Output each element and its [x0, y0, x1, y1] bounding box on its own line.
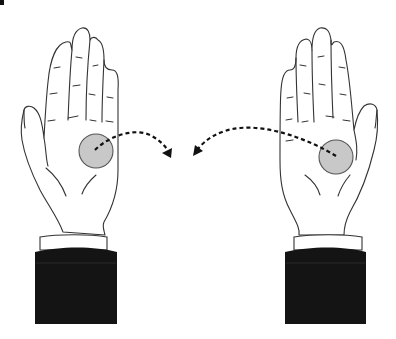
left-sleeve	[35, 248, 117, 325]
right-coin	[319, 140, 353, 174]
right-hand	[280, 28, 378, 235]
left-hand	[21, 28, 118, 235]
right-arrowhead	[193, 145, 203, 156]
left-hand-outline	[21, 28, 118, 235]
coin-transfer-illustration: Coin transfer between palms	[0, 0, 396, 339]
right-hand-outline	[280, 28, 378, 235]
left-arrowhead	[162, 148, 172, 158]
corner-mark	[0, 0, 4, 5]
hands-svg	[0, 0, 396, 339]
right-sleeve	[285, 248, 366, 325]
